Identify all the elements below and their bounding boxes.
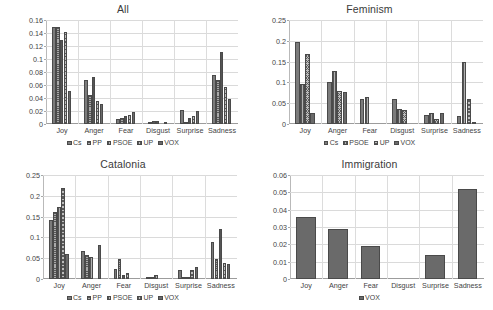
x-axis-label-anger: Anger bbox=[328, 126, 347, 135]
bar-psoe-disgust bbox=[156, 121, 159, 124]
bar-cs-sadness bbox=[457, 116, 462, 124]
x-axis-label-anger: Anger bbox=[329, 281, 348, 290]
bar-group-anger bbox=[75, 175, 107, 279]
legend-item-up[interactable]: UP bbox=[137, 139, 153, 146]
legend-item-cs[interactable]: Cs bbox=[67, 294, 82, 301]
bar-group-surprise bbox=[418, 20, 450, 124]
legend-swatch-cs-icon bbox=[67, 296, 72, 301]
legend-swatch-psoe-icon bbox=[107, 296, 112, 301]
legend-swatch-vox-icon bbox=[394, 141, 399, 146]
legend-label-cs: Cs bbox=[73, 139, 82, 146]
legend-item-psoe[interactable]: PSOE bbox=[107, 294, 132, 301]
chart-panel-catalonia: Catalonia00.050.10.150.20.25JoyAngerFear… bbox=[0, 155, 246, 310]
legend-item-psoe[interactable]: PSOE bbox=[343, 139, 368, 146]
x-axis-label-joy: Joy bbox=[56, 126, 67, 135]
bar-pp-joy bbox=[53, 212, 57, 279]
bar-cs-surprise bbox=[180, 110, 183, 124]
legend-item-vox[interactable]: VOX bbox=[158, 139, 179, 146]
bar-up-surprise bbox=[192, 116, 195, 124]
bar-vox-surprise bbox=[425, 255, 445, 279]
bar-group-sadness bbox=[205, 175, 237, 279]
bar-cs-sadness bbox=[211, 242, 215, 279]
bar-cs-anger bbox=[327, 82, 332, 124]
chart-panel-feminism: Feminism00.050.10.150.20.25JoyAngerFearD… bbox=[246, 0, 493, 155]
bar-pp-disgust bbox=[150, 277, 154, 279]
x-axis-label-surprise: Surprise bbox=[175, 281, 202, 290]
bar-vox-fear bbox=[361, 246, 381, 279]
legend-item-up[interactable]: UP bbox=[137, 294, 153, 301]
bar-group-anger bbox=[78, 20, 110, 124]
bar-group-sadness bbox=[452, 175, 484, 279]
chart-title-feminism: Feminism bbox=[246, 3, 493, 15]
bar-vox-sadness bbox=[227, 264, 231, 279]
legend-swatch-vox-icon bbox=[158, 296, 163, 301]
x-axis-label-surprise: Surprise bbox=[177, 126, 204, 135]
bar-group-fear bbox=[108, 175, 140, 279]
bar-group-surprise bbox=[172, 175, 204, 279]
chart-panel-immigration: Immigration00.010.020.030.040.050.06JoyA… bbox=[246, 155, 493, 310]
plot-area-catalonia: 00.050.10.150.20.25JoyAngerFearDisgustSu… bbox=[43, 175, 237, 279]
bar-pp-fear bbox=[120, 118, 123, 125]
bar-group-surprise bbox=[419, 175, 451, 279]
x-axis-label-fear: Fear bbox=[363, 281, 378, 290]
legend-label-cs: Cs bbox=[73, 294, 82, 301]
legend-item-up[interactable]: UP bbox=[374, 139, 390, 146]
legend-item-cs[interactable]: Cs bbox=[324, 139, 339, 146]
bar-cs-disgust bbox=[148, 122, 151, 124]
legend-label-psoe: PSOE bbox=[113, 139, 132, 146]
bar-psoe-disgust bbox=[397, 109, 402, 124]
bar-pp-surprise bbox=[184, 122, 187, 124]
bar-group-sadness bbox=[206, 20, 238, 124]
bar-up-joy bbox=[305, 54, 310, 124]
legend-label-up: UP bbox=[143, 139, 153, 146]
bar-cs-anger bbox=[81, 251, 85, 279]
legend-swatch-pp-icon bbox=[87, 296, 92, 301]
bar-psoe-fear bbox=[124, 116, 127, 124]
bar-up-sadness bbox=[224, 87, 227, 124]
bar-cs-surprise bbox=[178, 270, 182, 279]
bar-psoe-fear bbox=[365, 97, 370, 124]
x-axis-label-disgust: Disgust bbox=[144, 281, 168, 290]
bar-vox-joy bbox=[65, 254, 69, 279]
bar-vox-sadness bbox=[472, 122, 477, 124]
bar-pp-surprise bbox=[182, 277, 186, 279]
bar-psoe-surprise bbox=[186, 277, 190, 279]
bar-psoe-joy bbox=[57, 207, 61, 279]
bar-psoe-sadness bbox=[220, 52, 223, 124]
bar-group-anger bbox=[321, 20, 353, 124]
bar-cs-fear bbox=[116, 119, 119, 124]
legend-swatch-pp-icon bbox=[87, 141, 92, 146]
legend-item-vox[interactable]: VOX bbox=[359, 294, 380, 301]
legend-item-cs[interactable]: Cs bbox=[67, 139, 82, 146]
bar-group-disgust bbox=[387, 175, 419, 279]
legend-item-vox[interactable]: VOX bbox=[394, 139, 415, 146]
bar-psoe-anger bbox=[332, 71, 337, 124]
bar-vox-surprise bbox=[195, 267, 199, 279]
x-axis-label-sadness: Sadness bbox=[208, 126, 236, 135]
bar-group-disgust bbox=[140, 175, 172, 279]
bar-cs-sadness bbox=[212, 75, 215, 124]
legend-label-vox: VOX bbox=[400, 139, 415, 146]
x-axis-label-fear: Fear bbox=[116, 281, 131, 290]
bar-psoe-anger bbox=[92, 77, 95, 124]
bar-pp-joy bbox=[56, 27, 59, 125]
legend-swatch-vox-icon bbox=[158, 141, 163, 146]
bar-psoe-surprise bbox=[188, 118, 191, 125]
bar-group-surprise bbox=[174, 20, 206, 124]
bar-cs-disgust bbox=[392, 99, 397, 124]
legend-item-vox[interactable]: VOX bbox=[158, 294, 179, 301]
legend-item-psoe[interactable]: PSOE bbox=[107, 139, 132, 146]
bar-cs-surprise bbox=[424, 115, 429, 124]
bar-vox-anger bbox=[98, 245, 102, 279]
bar-up-fear bbox=[126, 273, 130, 279]
y-axis-tick-mark bbox=[41, 279, 43, 280]
bar-group-fear bbox=[354, 20, 386, 124]
bar-vox-surprise bbox=[440, 113, 445, 124]
y-axis-tick-mark bbox=[44, 124, 46, 125]
legend-label-vox: VOX bbox=[164, 294, 179, 301]
legend-label-up: UP bbox=[143, 294, 153, 301]
x-axis-label-joy: Joy bbox=[300, 126, 311, 135]
legend-item-pp[interactable]: PP bbox=[87, 139, 102, 146]
legend-item-pp[interactable]: PP bbox=[87, 294, 102, 301]
bar-up-sadness bbox=[223, 263, 227, 279]
